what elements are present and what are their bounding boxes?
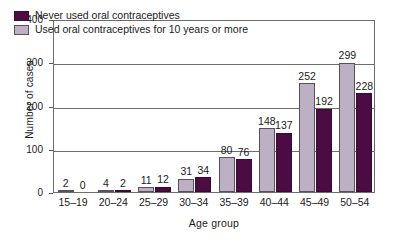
bar-value-label: 228: [350, 81, 378, 92]
bar-group: 8076: [219, 21, 252, 192]
plot-area: 2042111231348076148137252192299228: [53, 20, 375, 193]
bar[interactable]: [276, 133, 292, 192]
legend-item-label: Never used oral contraceptives: [35, 10, 180, 21]
bar-group: 1112: [138, 21, 171, 192]
x-tick-label: 45–49: [295, 196, 335, 208]
x-tick-label: 35–39: [214, 196, 254, 208]
y-tick-label: 100: [13, 145, 43, 155]
bar-value-label: 34: [189, 165, 217, 176]
legend-swatch-icon: [14, 25, 29, 35]
x-tick-label: 25–29: [134, 196, 174, 208]
bar-chart: Number of cases 0100200300400 2042111231…: [0, 0, 393, 245]
bar[interactable]: [259, 128, 275, 192]
bar-group: 20: [58, 21, 91, 192]
bars-layer: 2042111231348076148137252192299228: [54, 21, 374, 192]
legend-item[interactable]: Used oral contraceptives for 10 years or…: [14, 23, 248, 36]
bar[interactable]: [115, 190, 131, 192]
y-tick-label: 200: [13, 102, 43, 112]
bar-group: 148137: [259, 21, 292, 192]
x-tick-label: 50–54: [335, 196, 375, 208]
bar-value-label: 76: [230, 147, 258, 158]
bar[interactable]: [219, 157, 235, 192]
y-tick-label: 0: [13, 188, 43, 198]
x-tick-label: 15–19: [53, 196, 93, 208]
x-tick-label: 20–24: [93, 196, 133, 208]
bar[interactable]: [98, 190, 114, 192]
bar[interactable]: [178, 179, 194, 192]
bar-value-label: 299: [333, 50, 361, 61]
y-tick-mark: [49, 193, 53, 194]
chart-legend: Never used oral contraceptivesUsed oral …: [14, 9, 248, 37]
x-tick-label: 40–44: [254, 196, 294, 208]
bar[interactable]: [195, 177, 211, 192]
bar[interactable]: [138, 187, 154, 192]
legend-swatch-icon: [14, 11, 29, 21]
bar-value-label: 192: [310, 96, 338, 107]
bar-group: 252192: [299, 21, 332, 192]
bar[interactable]: [316, 109, 332, 192]
y-tick-label: 300: [13, 58, 43, 68]
bar-value-label: 137: [270, 120, 298, 131]
legend-item[interactable]: Never used oral contraceptives: [14, 9, 248, 22]
bar-group: 299228: [339, 21, 372, 192]
y-axis-title: Number of cases: [24, 20, 35, 180]
bar[interactable]: [356, 93, 372, 192]
bar-group: 42: [98, 21, 131, 192]
bar[interactable]: [155, 187, 171, 192]
bar[interactable]: [236, 159, 252, 192]
bar-value-label: 252: [293, 71, 321, 82]
legend-item-label: Used oral contraceptives for 10 years or…: [35, 24, 248, 35]
bar-group: 3134: [178, 21, 211, 192]
x-tick-label: 30–34: [174, 196, 214, 208]
x-axis-title: Age group: [53, 217, 375, 229]
